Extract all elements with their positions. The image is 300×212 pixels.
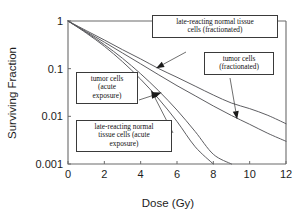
- x-tick-label: 0: [65, 168, 71, 180]
- annotation-tumor-fractionated: tumor cells (fractionated): [204, 52, 274, 75]
- annotation-tumor-acute: tumor cells (acute exposure): [76, 72, 138, 104]
- y-axis-title: Surviving Fraction: [6, 47, 18, 139]
- y-tick-label: 0.01: [42, 110, 63, 122]
- annotation-late-reacting-acute: late-reacting normal tissue cells (acute…: [76, 120, 172, 152]
- y-tick-label: 0.1: [48, 63, 63, 75]
- tick-labels: 02468101210.10.010.001: [35, 15, 292, 180]
- y-tick-label: 1: [57, 15, 63, 27]
- leader-arrowhead: [156, 62, 164, 68]
- x-tick-label: 8: [210, 168, 216, 180]
- x-tick-label: 6: [174, 168, 180, 180]
- x-axis-title: Dose (Gy): [142, 197, 195, 209]
- leader-line: [230, 78, 236, 111]
- leader-line: [163, 52, 186, 64]
- annotation-late-reacting-fractionated: late-reacting normal tissue cells (fract…: [152, 15, 278, 38]
- x-tick-label: 10: [244, 168, 256, 180]
- x-tick-label: 2: [101, 168, 107, 180]
- chart-figure: 02468101210.10.010.001 Dose (Gy) Survivi…: [0, 0, 300, 212]
- leader-line: [139, 95, 154, 100]
- y-tick-label: 0.001: [35, 158, 63, 170]
- x-tick-label: 12: [280, 168, 292, 180]
- x-tick-label: 4: [138, 168, 144, 180]
